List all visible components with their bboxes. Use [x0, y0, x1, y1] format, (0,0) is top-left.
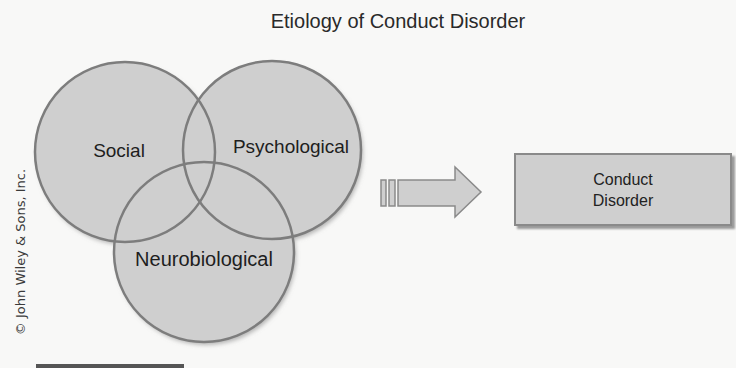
social-label: Social	[93, 140, 145, 162]
copyright-notice: © John Wiley & Sons, Inc.	[13, 169, 28, 335]
arrow-tail-bar-2	[389, 180, 395, 206]
right-arrow-icon	[381, 167, 481, 217]
arrow-body	[398, 167, 481, 217]
arrow-tail-bar-1	[381, 180, 386, 206]
psychological-label: Psychological	[233, 136, 349, 158]
outcome-line-1: Conduct	[593, 169, 653, 190]
conduct-disorder-box: Conduct Disorder	[514, 153, 732, 226]
bottom-divider	[36, 364, 184, 368]
outcome-line-2: Disorder	[593, 190, 653, 211]
neurobiological-label: Neurobiological	[135, 248, 273, 271]
